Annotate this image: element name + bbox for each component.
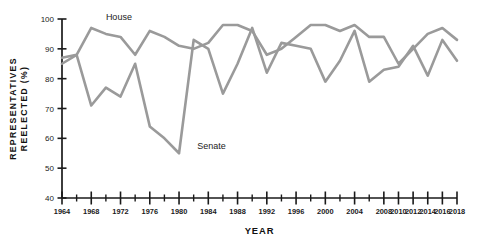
series-line-house	[62, 25, 457, 64]
x-tick-label: 1976	[142, 207, 158, 216]
axes	[62, 19, 457, 198]
x-tick-label: 1980	[171, 207, 187, 216]
annotation-senate: Senate	[197, 141, 226, 151]
y-tick-label: 40	[45, 194, 54, 203]
y-tick-label: 60	[45, 134, 54, 143]
x-tick-label: 1972	[112, 207, 128, 216]
y-tick-label: 80	[45, 75, 54, 84]
y-tick-label: 70	[45, 105, 54, 114]
line-chart: 4050607080901001964196819721976198019841…	[0, 0, 477, 243]
x-tick-label: 2004	[346, 207, 363, 216]
x-axis-title: YEAR	[245, 225, 275, 236]
x-tick-label: 1968	[83, 207, 99, 216]
annotation-house: House	[106, 12, 132, 22]
x-tick-label: 1988	[229, 207, 245, 216]
chart-figure: 4050607080901001964196819721976198019841…	[0, 0, 477, 243]
tick-labels: 4050607080901001964196819721976198019841…	[41, 15, 466, 216]
x-tick-label: 1992	[259, 207, 275, 216]
x-tick-label: 2018	[449, 207, 465, 216]
y-tick-label: 50	[45, 164, 54, 173]
data-series	[62, 25, 457, 153]
series-annotations: HouseSenate	[106, 12, 226, 150]
x-tick-label: 1964	[54, 207, 71, 216]
y-tick-label: 100	[41, 15, 55, 24]
y-axis-title-line-1: REPRESENTATIVES	[8, 57, 18, 160]
x-tick-label: 1984	[200, 207, 217, 216]
y-tick-label: 90	[45, 45, 54, 54]
x-tick-label: 1996	[288, 207, 304, 216]
series-line-senate	[62, 28, 457, 153]
x-tick-label: 2000	[317, 207, 333, 216]
y-axis-title-line-2: REELECTED (%)	[19, 66, 29, 151]
